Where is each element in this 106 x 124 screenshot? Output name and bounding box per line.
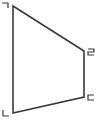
vertex-label-top-left [2,3,8,8]
quadrilateral-diagram [0,0,106,124]
vertex-label-bottom-right [88,95,94,100]
vertex-label-top-right [88,49,94,55]
vertex-label-bottom-left [3,110,9,116]
quadrilateral-shape [13,6,84,113]
